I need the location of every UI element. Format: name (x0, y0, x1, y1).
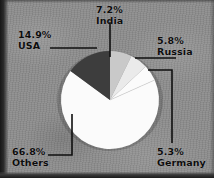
slice-percent-india: 7.2% (96, 5, 123, 16)
slice-label-usa: 14.9% USA (18, 30, 51, 51)
slice-name-others: Others (12, 158, 49, 169)
slice-name-india: India (96, 16, 123, 27)
slice-label-india: 7.2% India (96, 5, 123, 26)
slice-percent-others: 66.8% (12, 147, 49, 158)
slice-name-usa: USA (18, 41, 51, 52)
slice-label-germany: 5.3% Germany (157, 147, 206, 168)
slice-percent-russia: 5.8% (157, 36, 193, 47)
slice-label-russia: 5.8% Russia (157, 36, 193, 57)
slice-name-germany: Germany (157, 158, 206, 169)
slice-percent-usa: 14.9% (18, 30, 51, 41)
pie-chart-image: 7.2% India 14.9% USA 5.8% Russia 5.3% Ge… (0, 0, 214, 178)
slice-name-russia: Russia (157, 47, 193, 58)
slice-label-others: 66.8% Others (12, 147, 49, 168)
slice-percent-germany: 5.3% (157, 147, 206, 158)
